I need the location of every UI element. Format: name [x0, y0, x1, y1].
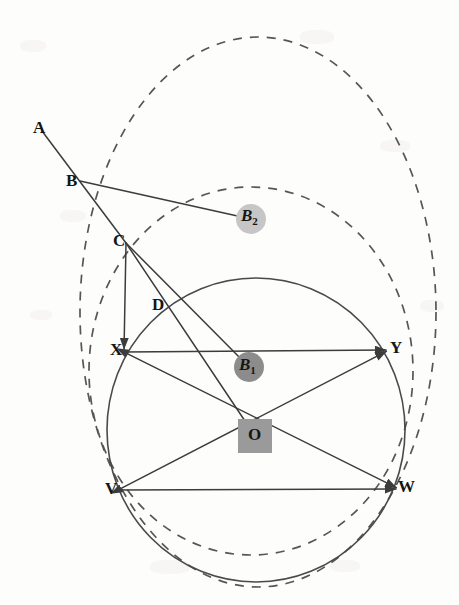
point-label-A: A	[33, 119, 45, 136]
geometry-figure: ABCDXYVWOB1B2	[0, 0, 459, 605]
point-label-text: B	[241, 206, 252, 225]
point-label-subscript: 1	[250, 364, 256, 376]
point-label-D: D	[152, 296, 164, 313]
point-label-text: C	[113, 231, 125, 250]
point-label-O: O	[248, 426, 261, 443]
point-label-text: Y	[390, 338, 402, 357]
point-label-X: X	[110, 341, 122, 358]
segments-group	[42, 131, 396, 490]
point-label-text: V	[105, 479, 117, 498]
point-label-text: W	[398, 477, 415, 496]
point-label-W: W	[398, 478, 415, 495]
point-label-text: X	[110, 340, 122, 359]
point-label-Y: Y	[390, 339, 402, 356]
point-label-text: O	[248, 425, 261, 444]
point-label-text: A	[33, 118, 45, 137]
point-label-text: D	[152, 295, 164, 314]
point-label-V: V	[105, 480, 117, 497]
point-label-subscript: 2	[252, 215, 258, 227]
point-label-text: B	[239, 355, 250, 374]
line-a-to-c	[42, 131, 126, 243]
line-b-to-b2	[80, 181, 251, 219]
line-c-to-x	[124, 243, 126, 349]
point-label-B2: B2	[241, 207, 258, 227]
chord-x-to-y	[124, 350, 386, 352]
chord-v-to-w	[118, 489, 396, 490]
point-label-C: C	[113, 232, 125, 249]
line-c-to-b1	[126, 243, 249, 367]
circles-group	[80, 37, 436, 587]
circle-outer-dashed	[80, 37, 436, 587]
point-label-B1: B1	[239, 356, 256, 376]
figure-canvas	[0, 0, 459, 605]
point-label-text: B	[66, 171, 77, 190]
point-label-B: B	[66, 172, 77, 189]
